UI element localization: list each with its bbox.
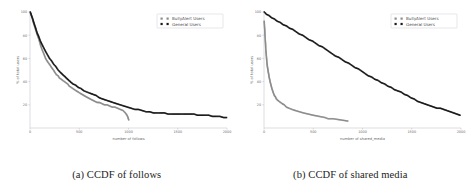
data-point — [346, 120, 348, 122]
x-tick-label: 2000 — [456, 130, 465, 134]
y-tick-label: 100 — [21, 10, 27, 14]
x-tick-label: 1000 — [358, 130, 367, 134]
y-tick-label: 20 — [256, 103, 260, 107]
y-tick-label: 40 — [256, 80, 260, 84]
y-tick-label: 100 — [254, 10, 260, 14]
legend-label: BullyAlert Users — [172, 16, 205, 21]
legend-label: General Users — [406, 22, 435, 27]
y-axis-title: % of total users — [16, 56, 20, 84]
legend-marker — [161, 18, 163, 20]
y-tick-label: 80 — [23, 34, 27, 38]
x-tick-label: 500 — [76, 130, 82, 134]
figure-row: 050010001500200020406080100number of fol… — [0, 0, 467, 188]
chart-a-plot-area: 050010001500200020406080100number of fol… — [0, 0, 234, 152]
x-tick-label: 500 — [310, 130, 316, 134]
chart-axis-lines — [30, 12, 227, 128]
legend-marker — [400, 18, 402, 20]
data-point — [128, 119, 130, 121]
data-point — [459, 114, 461, 116]
y-tick-label: 60 — [256, 57, 260, 61]
x-tick-label: 2000 — [223, 130, 232, 134]
legend-marker — [161, 23, 163, 25]
x-axis-title: number of follows — [112, 137, 144, 141]
x-tick-label: 0 — [262, 130, 264, 134]
y-tick-label: 20 — [23, 103, 27, 107]
subfigure-b-caption: (b) CCDF of shared media — [234, 169, 467, 180]
chart-legend: BullyAlert UsersGeneral Users — [157, 14, 223, 28]
legend-marker — [394, 23, 396, 25]
legend-marker — [394, 18, 396, 20]
y-axis-title: % of total users — [250, 56, 254, 84]
chart-a-render-group: 050010001500200020406080100number of fol… — [16, 10, 231, 140]
chart-b-render-group: 050010001500200020406080100number of sha… — [250, 10, 465, 140]
chart-b-svg: 050010001500200020406080100number of sha… — [234, 0, 467, 152]
x-tick-label: 1500 — [173, 130, 182, 134]
subfigure-a-caption: (a) CCDF of follows — [0, 169, 234, 180]
x-tick-label: 1500 — [407, 130, 416, 134]
y-tick-label: 40 — [23, 80, 27, 84]
legend-marker — [167, 23, 169, 25]
series-bullyalert-users — [30, 12, 130, 120]
legend-marker — [400, 23, 402, 25]
chart-a-svg: 050010001500200020406080100number of fol… — [0, 0, 234, 152]
legend-label: General Users — [172, 22, 201, 27]
chart-legend: BullyAlert UsersGeneral Users — [391, 14, 457, 28]
series-bullyalert-users — [263, 21, 348, 122]
x-tick-label: 1000 — [124, 130, 133, 134]
subfigure-b: 050010001500200020406080100number of sha… — [234, 0, 467, 188]
x-tick-label: 0 — [29, 130, 31, 134]
y-tick-label: 80 — [256, 34, 260, 38]
legend-label: BullyAlert Users — [406, 16, 439, 21]
y-tick-label: 60 — [23, 57, 27, 61]
data-point — [226, 117, 228, 119]
legend-marker — [167, 18, 169, 20]
chart-b-plot-area: 050010001500200020406080100number of sha… — [234, 0, 467, 152]
subfigure-a: 050010001500200020406080100number of fol… — [0, 0, 234, 188]
x-axis-title: number of shared_media — [339, 137, 384, 141]
